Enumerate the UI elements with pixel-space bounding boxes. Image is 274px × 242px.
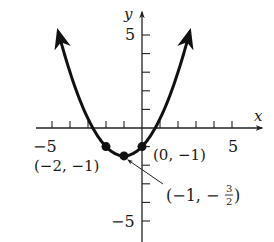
highlighted-points (102, 142, 147, 160)
x-tick-label-neg5: −5 (33, 137, 57, 156)
y-axis-label: y (123, 5, 133, 23)
data-point (102, 142, 111, 151)
svg-text:): ) (234, 186, 240, 205)
point-label-left: (−2, −1) (34, 157, 99, 175)
svg-text:2: 2 (226, 196, 232, 207)
point-label-right: (0, −1) (153, 146, 206, 164)
parabola-graph: y x 5 −5 −5 5 (−2, −1) (0, −1) (−1, − 3 … (0, 0, 274, 242)
x-axis-label: x (254, 107, 263, 125)
y-tick-label-5: 5 (125, 25, 135, 44)
svg-text:(−1, −: (−1, − (166, 186, 219, 205)
x-tick-label-5: 5 (228, 137, 238, 156)
x-axis (36, 121, 262, 128)
svg-text:3: 3 (226, 183, 232, 194)
y-tick-label-neg5: −5 (111, 212, 135, 231)
data-point (138, 142, 147, 151)
y-axis (142, 12, 150, 242)
parabola-curve (58, 32, 189, 156)
data-point (120, 151, 129, 160)
point-label-vertex: (−1, − 3 2 ) (166, 183, 240, 207)
